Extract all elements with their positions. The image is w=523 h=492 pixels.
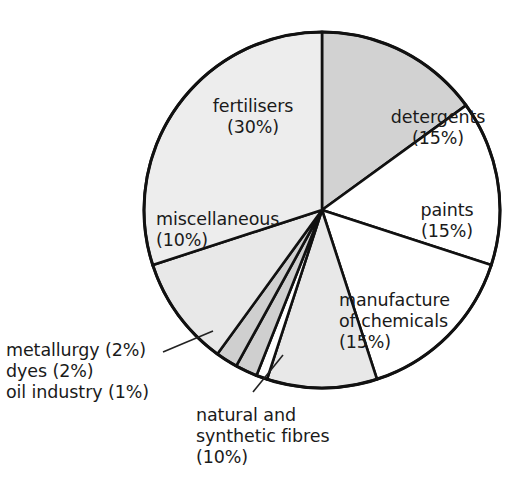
slice-label-detergents: detergents (15%) [368, 107, 508, 149]
pie-chart: fertilisers (30%) detergents (15%) paint… [0, 0, 523, 492]
slice-label-fertilisers: fertilisers (30%) [178, 96, 328, 138]
slice-label-manufacture-of-chemicals: manufacture of chemicals (15%) [339, 290, 499, 353]
slice-label-small-sectors: metallurgy (2%) dyes (2%) oil industry (… [6, 340, 206, 403]
slice-label-natural-and-synthetic-fibres: natural and synthetic fibres (10%) [196, 405, 376, 468]
slice-label-paints: paints (15%) [392, 200, 502, 242]
slice-label-miscellaneous: miscellaneous (10%) [156, 209, 316, 251]
